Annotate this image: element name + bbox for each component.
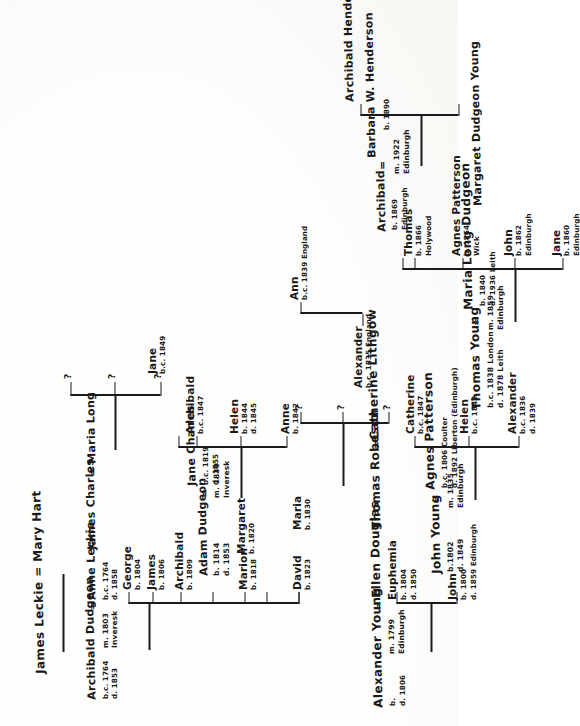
union-leckie-hart: James Leckie = Mary Hart <box>30 490 48 674</box>
archibald-barbara-marriage-year: m. 1922 <box>392 139 400 174</box>
john-young-jr-birth: b. 1862 <box>514 225 522 256</box>
alexander-young-birth: b. <box>388 698 396 706</box>
unknown-child-robeson-1: ? <box>293 405 303 410</box>
catherine-young-birth: b.c. 1847 <box>416 396 424 434</box>
thomas-young-jr-place: Holywood <box>424 215 432 256</box>
tick-thomas-archibald <box>402 258 403 270</box>
unknown-child-charles-3: ? <box>152 374 162 379</box>
jane-young-birth: b. 1860 <box>562 225 570 256</box>
connector-dudgeon-down <box>148 604 150 650</box>
tick-robeson-2 <box>342 412 343 424</box>
tick-robeson-3 <box>388 412 389 424</box>
sibling-bar-john <box>414 446 518 448</box>
john-young-sr-birth: b. 1800 <box>459 569 467 600</box>
person-maria-dudgeon: Maria <box>291 496 303 530</box>
tick-thomas-jane <box>562 258 563 270</box>
tick-thomas-agnes <box>462 258 463 270</box>
equals-adam-jane: = <box>198 489 210 498</box>
person-john-young-jr: John <box>502 229 514 256</box>
jane-charles-birth: b.c. 1819 <box>201 447 209 485</box>
tick-john-alexander <box>518 436 519 448</box>
equals-robeson-lithgow: = <box>370 441 382 450</box>
tick-dudgeon-marion <box>244 592 245 604</box>
unknown-child-charles-2: ? <box>106 374 116 379</box>
person-david-dudgeon: David <box>291 555 303 590</box>
agnes-patterson-young-birth: b. 1864 <box>462 225 470 256</box>
connector-archibald-down <box>420 116 422 166</box>
person-marion-dudgeon: Marion <box>237 548 249 590</box>
john-young-birth: b.1802 <box>446 541 455 572</box>
person-john-young: John Young <box>428 494 443 574</box>
person-jane-dudgeon: Jane <box>146 348 158 374</box>
tick-john-helen <box>468 436 469 448</box>
young-douglas-marriage-place: Edinburgh <box>397 609 405 654</box>
alexander-young-jr-birth: b.c. 1836 <box>518 396 526 434</box>
margaret-dudgeon-birth: b. 1820 <box>247 523 255 554</box>
person-maria-long: Maria Long <box>84 392 98 464</box>
person-archibald-dudgeon-iii: Archibald <box>184 376 196 434</box>
james-dudgeon-birth: b. 1806 <box>157 559 165 590</box>
tick-dudgeon-margaret <box>266 592 267 604</box>
thomas-maria-marriage-year: m. 1859 <box>486 295 494 330</box>
sibling-bar-england <box>300 312 362 314</box>
person-barbara-henderson: Barbara W. Henderson <box>363 12 379 158</box>
john-young-sr-death: d. 1859 Edinburgh <box>469 524 477 600</box>
young-douglas-marriage-year: m. 1799 <box>387 619 395 654</box>
unknown-child-charles-1: ? <box>62 374 72 379</box>
equals-archibald-barbara: = <box>376 161 388 170</box>
george-dudgeon-birth: b. 1804 <box>133 559 141 590</box>
sibling-bar-final <box>360 114 458 116</box>
adam-jane-marriage-year: m. 1839 <box>212 463 220 498</box>
person-anne-dudgeon: Anne <box>279 403 291 434</box>
equals-young-douglas: = <box>372 601 384 610</box>
connector-charles-down <box>114 396 116 450</box>
tick-dudgeon-archibald <box>180 592 181 604</box>
connector-leckie-down <box>62 574 64 652</box>
tick-dudgeon-adam <box>212 592 213 604</box>
thomas-young-birth: b.c. 1838 London <box>486 331 495 408</box>
tick-dudgeon-maria <box>298 592 299 604</box>
dudgeon-leckie-marriage-place: Inveresk <box>110 611 118 648</box>
equals-john-agnes: = <box>430 495 442 504</box>
alexander-england-birth: b.c. 1835 England <box>364 314 372 388</box>
anne-leckie-death: d. 1858 <box>110 569 118 600</box>
person-margaret-dudgeon: Margaret <box>235 498 247 554</box>
thomas-young-jr-birth: b. 1866 <box>414 225 422 256</box>
alexander-young-jr-death: d. 1839 <box>528 403 536 434</box>
person-margaret-dudgeon-young: Margaret Dudgeon Young <box>468 41 484 206</box>
equals-charles-long: = <box>86 467 98 476</box>
tick-john-catherine <box>414 436 415 448</box>
person-alexander-england: Alexander <box>352 326 364 388</box>
person-helen-young: Helen <box>458 399 470 434</box>
tick-adam-anne <box>286 436 287 448</box>
john-young-jr-place: Edinburgh <box>524 213 532 256</box>
adam-dudgeon-death: d. 1853 <box>222 543 231 577</box>
archibald-dudgeon-birth: b.c. 1764 <box>101 661 109 699</box>
person-catherine-young: Catherine <box>404 374 416 434</box>
agnes-patterson-young-place: Wick <box>472 236 480 256</box>
person-james-dudgeon: James <box>145 554 157 590</box>
jane-young-place: Edinburgh <box>572 213 580 256</box>
sibling-bar-thomas <box>402 268 562 270</box>
maria-dudgeon-birth: b. 1830 <box>303 499 311 530</box>
connector-john-down <box>474 448 476 500</box>
person-alexander-young-jr: Alexander <box>506 372 518 434</box>
john-agnes-marriage-year: m. 1835 <box>446 473 454 508</box>
connector-england-left <box>362 314 363 326</box>
adam-jane-marriage-place: Inveresk <box>222 461 230 498</box>
archibald-young-place: Edinburgh <box>400 187 408 230</box>
euphemia-young-death: d. 1850 <box>409 569 417 600</box>
adam-dudgeon-birth: b. 1814 <box>212 543 221 577</box>
jane-dudgeon-birth: b.c. 1849 <box>158 336 166 374</box>
tick-thomas-john <box>514 258 515 270</box>
tick-thomas-thomas <box>414 258 415 270</box>
tick-dudgeon-george <box>128 592 129 604</box>
equals-thomas-maria: = <box>470 317 482 326</box>
archibald-dudgeon-death: d. 1853 <box>110 668 118 699</box>
alexander-young-death: d. 1806 <box>398 675 406 706</box>
tick-england-ann <box>300 302 301 314</box>
david-dudgeon-birth: b. 1823 <box>303 559 311 590</box>
anne-leckie-birth: b.c. 1764 <box>101 562 109 600</box>
tick-dudgeon-james <box>152 592 153 604</box>
